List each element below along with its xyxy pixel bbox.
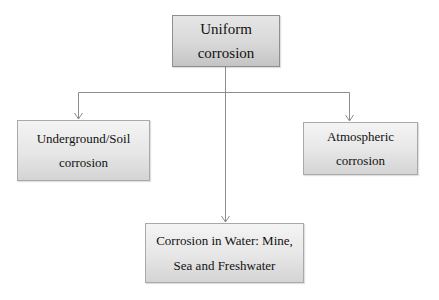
bottom-node-line2: Sea and Freshwater <box>174 253 276 278</box>
right-node-line1: Atmospheric <box>327 125 394 149</box>
bottom-node-line1: Corrosion in Water: Mine, <box>156 228 293 253</box>
root-node-line2: corrosion <box>198 41 255 65</box>
left-node-line1: Underground/Soil <box>37 127 131 151</box>
node-atmospheric-corrosion: Atmospheric corrosion <box>303 122 418 175</box>
node-underground-soil-corrosion: Underground/Soil corrosion <box>17 120 150 181</box>
root-node-uniform-corrosion: Uniform corrosion <box>172 15 280 67</box>
right-node-line2: corrosion <box>336 149 385 173</box>
root-node-line1: Uniform <box>200 17 252 41</box>
node-corrosion-in-water: Corrosion in Water: Mine, Sea and Freshw… <box>145 223 304 283</box>
left-node-line2: corrosion <box>59 151 108 175</box>
